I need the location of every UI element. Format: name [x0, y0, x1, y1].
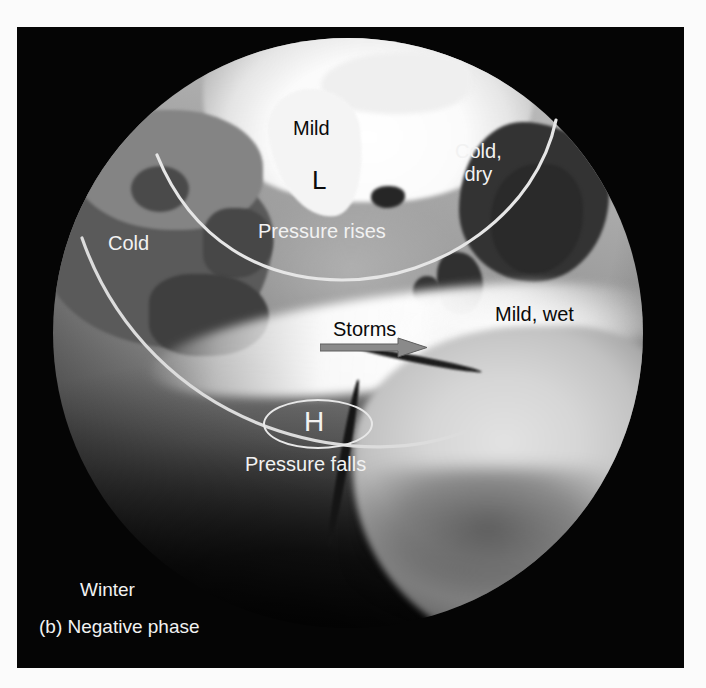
label-high-pressure-symbol: H: [304, 408, 324, 436]
label-pressure-rises: Pressure rises: [258, 221, 386, 241]
label-cold-dry: Cold, dry: [455, 141, 502, 184]
label-cold-dry-line1: Cold,: [455, 141, 502, 161]
southern-terminator-shadow: [353, 468, 643, 628]
satellite-image-panel: Mild Cold, dry L Cold Pressure rises Sto…: [17, 27, 684, 668]
storm-arrow-icon: [320, 337, 428, 359]
label-pressure-falls: Pressure falls: [245, 454, 366, 474]
label-winter: Winter: [80, 580, 135, 599]
label-low-pressure-symbol: L: [312, 167, 326, 193]
nao-negative-phase-figure: Mild Cold, dry L Cold Pressure rises Sto…: [0, 0, 706, 688]
figure-caption: (b) Negative phase: [39, 617, 200, 636]
hudson-bay: [131, 166, 189, 212]
label-mild: Mild: [293, 118, 330, 138]
label-cold: Cold: [108, 233, 149, 253]
label-cold-dry-line2: dry: [455, 164, 502, 184]
label-storms: Storms: [333, 319, 396, 339]
label-mild-wet: Mild, wet: [495, 304, 574, 324]
